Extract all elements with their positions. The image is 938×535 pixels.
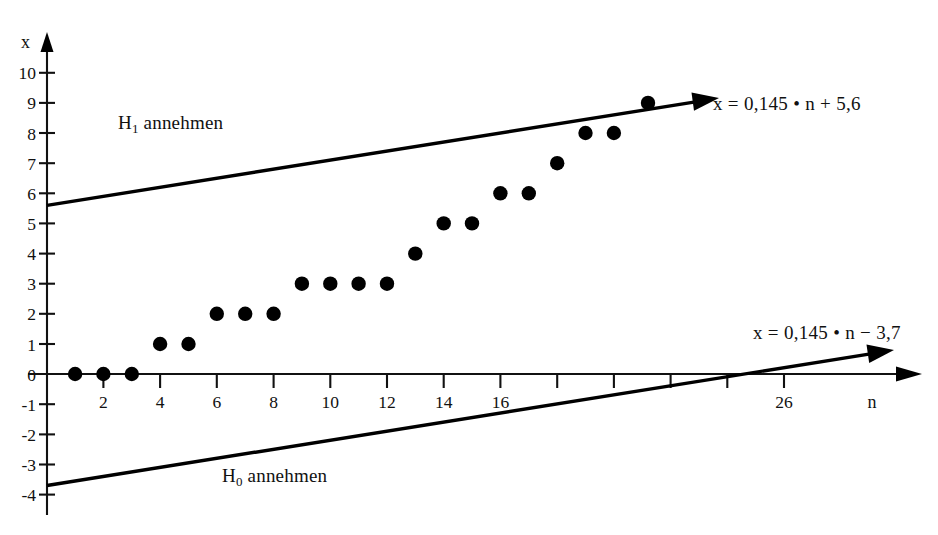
x-tick-label: 14	[435, 392, 453, 412]
y-tick-label: -1	[21, 395, 36, 415]
equation-label-lower-boundary: x = 0,145 • n − 3,7	[753, 322, 901, 344]
data-point	[408, 246, 422, 260]
data-point	[153, 337, 167, 351]
region-label-h1-text: annehmen	[139, 112, 224, 133]
data-point	[437, 216, 451, 230]
x-tick-label: 2	[99, 392, 108, 412]
y-axis-title: x	[21, 32, 30, 52]
data-point	[210, 307, 224, 321]
y-tick-label: -4	[21, 485, 36, 505]
chart-canvas: 10 9 8 7 6 5 4 3 2 1 0 -1 -2 -3 -4 x	[0, 0, 938, 535]
data-point	[465, 216, 479, 230]
data-point	[351, 277, 365, 291]
data-point	[295, 277, 309, 291]
y-tick-label: 10	[19, 63, 37, 83]
region-label-h1: H1 annehmen	[118, 112, 223, 137]
y-axis-tick-labels: 10 9 8 7 6 5 4 3 2 1 0 -1 -2 -3 -4	[19, 63, 37, 505]
data-point	[323, 277, 337, 291]
chart-figure: 10 9 8 7 6 5 4 3 2 1 0 -1 -2 -3 -4 x	[0, 0, 938, 535]
data-point	[641, 96, 655, 110]
y-axis-arrowhead	[41, 32, 54, 52]
scatter-points	[68, 96, 655, 381]
y-tick-label: 3	[27, 274, 36, 294]
x-tick-label: 12	[378, 392, 396, 412]
data-point	[181, 337, 195, 351]
equation-label-upper-boundary: x = 0,145 • n + 5,6	[713, 93, 861, 115]
x-tick-label: 10	[322, 392, 340, 412]
x-tick-label: 4	[156, 392, 165, 412]
data-point	[68, 367, 82, 381]
x-tick-label: 26	[775, 392, 793, 412]
data-point	[550, 156, 564, 170]
region-label-h0-symbol: H	[222, 465, 236, 486]
upper-boundary-line	[47, 92, 719, 205]
x-tick-label: 6	[212, 392, 221, 412]
y-tick-label: -2	[21, 425, 36, 445]
y-tick-label: 9	[27, 93, 36, 113]
data-point	[522, 186, 536, 200]
y-tick-label: -3	[21, 455, 36, 475]
data-point	[125, 367, 139, 381]
data-point	[493, 186, 507, 200]
region-label-h1-symbol: H	[118, 112, 132, 133]
region-label-h0-text: annehmen	[243, 465, 328, 486]
y-tick-label: 6	[27, 184, 36, 204]
region-label-h1-subscript: 1	[132, 121, 139, 136]
x-tick-label: 16	[492, 392, 510, 412]
x-tick-label: 8	[269, 392, 278, 412]
data-point	[266, 307, 280, 321]
y-tick-label: 7	[27, 154, 36, 174]
data-point	[380, 277, 394, 291]
y-tick-label: 5	[27, 214, 36, 234]
x-axis-title: n	[868, 392, 877, 412]
x-axis-tick-labels: 2 4 6 8 10 12 14 16 26	[99, 392, 793, 412]
y-tick-label: 4	[27, 244, 36, 264]
data-point	[96, 367, 110, 381]
y-tick-label: 2	[27, 304, 36, 324]
data-point	[578, 126, 592, 140]
region-label-h0-subscript: 0	[236, 474, 243, 489]
x-axis-arrowhead	[896, 367, 922, 382]
region-label-h0: H0 annehmen	[222, 465, 327, 490]
y-tick-label: 8	[27, 124, 36, 144]
data-point	[238, 307, 252, 321]
y-tick-label: 0	[27, 365, 36, 385]
data-point	[607, 126, 621, 140]
lower-boundary-line	[47, 345, 894, 486]
y-tick-label: 1	[27, 335, 36, 355]
x-axis-ticks	[103, 374, 784, 388]
